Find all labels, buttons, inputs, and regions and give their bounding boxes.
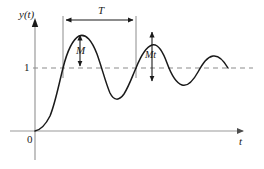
damped-oscillation-figure: y(t) t 1 0 T M Mt: [0, 0, 264, 169]
steady-state-tick-label: 1: [24, 62, 30, 73]
t-axis-label: t: [239, 136, 242, 147]
period-label: T: [98, 5, 104, 16]
origin-label: 0: [27, 134, 33, 145]
first-overshoot-label: M: [76, 45, 85, 56]
figure-canvas: [0, 0, 264, 169]
response-curve: [35, 35, 228, 131]
y-axis-label: y(t): [19, 9, 34, 20]
second-overshoot-label: Mt: [145, 50, 156, 60]
